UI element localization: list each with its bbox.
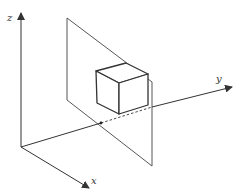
z-axis-label: z [6,12,13,23]
y-axis-base [21,123,101,147]
x-axis [21,147,89,188]
intersection-point [100,122,103,125]
x-axis-label: x [91,175,97,186]
coordinate-diagram: z x y [0,0,241,196]
cube [96,63,148,114]
y-axis-label: y [215,73,222,84]
y-axis [152,87,232,107]
diagram-canvas: z x y [0,0,241,196]
